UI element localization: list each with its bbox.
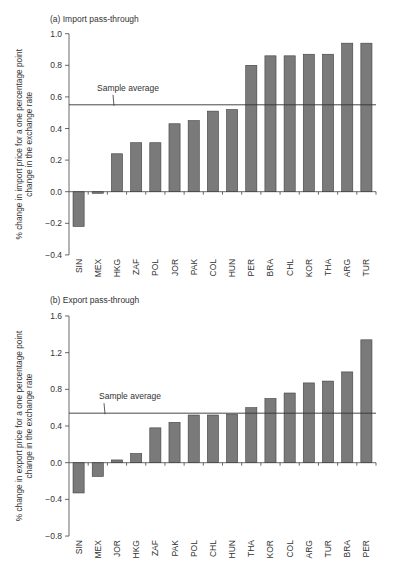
bar-arg bbox=[342, 43, 353, 192]
y-tick-label: 0.2 bbox=[50, 155, 62, 165]
category-label: PER bbox=[246, 259, 256, 276]
export-pass-through-chart: (b) Export pass-through % change in expo… bbox=[14, 295, 376, 558]
y-axis-ticks: −0.8−0.40.00.40.81.21.6 bbox=[45, 311, 69, 541]
category-label: MEX bbox=[93, 540, 103, 559]
category-label: ARG bbox=[304, 540, 314, 558]
y-tick-label: 0.0 bbox=[50, 458, 62, 468]
y-tick-label: 0.4 bbox=[50, 421, 62, 431]
category-label: KOR bbox=[265, 540, 275, 558]
bar-hun bbox=[227, 110, 238, 192]
bar-pol bbox=[188, 415, 199, 463]
bar-arg bbox=[303, 383, 314, 463]
sample-average-label: Sample average bbox=[97, 83, 159, 93]
import-pass-through-chart: (a) Import pass-through % change in impo… bbox=[14, 14, 376, 277]
sample-average-pointer bbox=[104, 403, 105, 414]
bar-mex bbox=[92, 463, 103, 477]
category-label: HKG bbox=[112, 259, 122, 277]
category-label: PER bbox=[361, 540, 371, 557]
bar-jor bbox=[169, 124, 180, 192]
y-axis-label-line-2: change in the exchange rate bbox=[24, 92, 34, 197]
bars bbox=[73, 43, 372, 226]
category-label: CHL bbox=[208, 540, 218, 557]
sample-average-pointer bbox=[113, 95, 114, 106]
chart-title: (b) Export pass-through bbox=[50, 295, 140, 305]
category-label: TUR bbox=[323, 540, 333, 557]
bar-bra bbox=[342, 372, 353, 463]
bar-hkg bbox=[131, 454, 142, 463]
bar-tur bbox=[361, 43, 372, 192]
y-axis-label: % change in export price for a one perce… bbox=[14, 330, 34, 521]
category-label: PAK bbox=[170, 540, 180, 557]
y-axis-label-line-2: change in the exchange rate bbox=[24, 373, 34, 478]
category-label: MEX bbox=[93, 259, 103, 278]
y-tick-label: −0.4 bbox=[45, 250, 62, 260]
bar-zaf bbox=[131, 143, 142, 192]
category-label: SIN bbox=[74, 540, 84, 554]
y-tick-label: −0.2 bbox=[45, 218, 62, 228]
bar-per bbox=[246, 65, 257, 191]
bar-hkg bbox=[111, 154, 122, 192]
bar-bra bbox=[265, 56, 276, 192]
category-label: THA bbox=[323, 259, 333, 276]
category-label: POL bbox=[150, 259, 160, 276]
category-label: HKG bbox=[131, 540, 141, 558]
y-tick-label: 0.8 bbox=[50, 60, 62, 70]
y-tick-label: −0.8 bbox=[45, 531, 62, 541]
category-label: PAK bbox=[189, 259, 199, 276]
category-label: TUR bbox=[361, 259, 371, 276]
bar-sin bbox=[73, 463, 84, 493]
y-axis-label-line-1: % change in export price for a one perce… bbox=[14, 330, 24, 521]
category-label: COL bbox=[285, 540, 295, 558]
y-tick-label: 0.6 bbox=[50, 92, 62, 102]
y-tick-label: 0.0 bbox=[50, 187, 62, 197]
y-axis-label-line-1: % change in import price for a one perce… bbox=[14, 48, 24, 239]
bar-pak bbox=[188, 121, 199, 192]
category-label: SIN bbox=[74, 259, 84, 273]
bar-jor bbox=[111, 460, 122, 463]
category-label: JOR bbox=[112, 540, 122, 557]
figure: (a) Import pass-through % change in impo… bbox=[0, 0, 394, 567]
category-label: THA bbox=[246, 540, 256, 557]
y-axis-ticks: −0.4−0.20.00.20.40.60.81.0 bbox=[45, 29, 69, 260]
y-axis-label: % change in import price for a one perce… bbox=[14, 48, 34, 239]
chart-title: (a) Import pass-through bbox=[50, 14, 139, 24]
bar-chl bbox=[207, 415, 218, 463]
category-label: BRA bbox=[265, 259, 275, 277]
category-label: POL bbox=[189, 540, 199, 557]
bar-kor bbox=[303, 54, 314, 191]
category-label: COL bbox=[208, 259, 218, 277]
bar-col bbox=[207, 111, 218, 192]
category-label: CHL bbox=[285, 259, 295, 276]
category-label: BRA bbox=[342, 540, 352, 558]
x-axis-category-labels: SINMEXJORHKGZAFPAKPOLCHLHUNTHAKORCOLARGT… bbox=[74, 540, 372, 559]
y-tick-label: −0.4 bbox=[45, 494, 62, 504]
y-tick-label: 0.4 bbox=[50, 124, 62, 134]
category-label: ZAF bbox=[131, 259, 141, 275]
bar-chl bbox=[284, 56, 295, 192]
bar-zaf bbox=[150, 428, 161, 463]
bar-kor bbox=[265, 399, 276, 463]
category-label: KOR bbox=[304, 259, 314, 277]
sample-average-label: Sample average bbox=[99, 391, 161, 401]
bar-col bbox=[284, 393, 295, 463]
bar-tha bbox=[246, 408, 257, 463]
category-label: HUN bbox=[227, 259, 237, 277]
bar-per bbox=[361, 340, 372, 463]
category-label: HUN bbox=[227, 540, 237, 558]
category-label: ARG bbox=[342, 259, 352, 277]
x-axis-category-labels: SINMEXHKGZAFPOLJORPAKCOLHUNPERBRACHLKORT… bbox=[74, 259, 372, 278]
bar-sin bbox=[73, 192, 84, 227]
y-tick-label: 0.8 bbox=[50, 384, 62, 394]
category-label: JOR bbox=[170, 259, 180, 276]
bar-hun bbox=[227, 414, 238, 463]
y-tick-label: 1.0 bbox=[50, 29, 62, 39]
bar-tha bbox=[322, 54, 333, 191]
category-label: ZAF bbox=[150, 540, 160, 556]
bar-pak bbox=[169, 422, 180, 462]
bars bbox=[73, 340, 372, 493]
y-tick-label: 1.2 bbox=[50, 348, 62, 358]
bar-tur bbox=[322, 381, 333, 463]
bar-chart-figure: (a) Import pass-through % change in impo… bbox=[0, 0, 394, 567]
y-tick-label: 1.6 bbox=[50, 311, 62, 321]
bar-pol bbox=[150, 143, 161, 192]
